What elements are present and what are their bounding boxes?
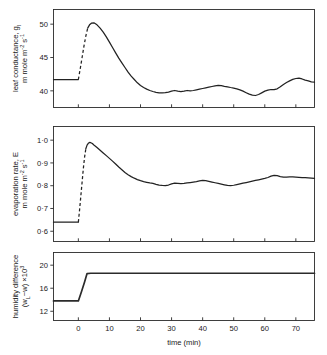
multi-panel-timeseries-figure: 4045500·60·70·80·91·01216200102030405060… bbox=[0, 0, 327, 355]
svg-text:m mole m-2 s-1: m mole m-2 s-1 bbox=[19, 159, 29, 208]
x-tick-label: 10 bbox=[105, 324, 113, 333]
panel-humidity-difference: 121620 bbox=[40, 253, 315, 321]
data-curve-thick bbox=[54, 273, 315, 301]
x-tick-label: 20 bbox=[136, 324, 144, 333]
y-tick-label: 16 bbox=[40, 284, 48, 293]
x-tick-label: 70 bbox=[292, 324, 300, 333]
x-tick-label: 60 bbox=[261, 324, 269, 333]
data-curve-solid bbox=[86, 142, 315, 185]
y-tick-label: 0·6 bbox=[37, 227, 48, 236]
data-curve-dashed bbox=[78, 28, 87, 79]
y-axis-label-line2-panel1: m mole m-2 s-1 bbox=[19, 34, 29, 83]
y-axis-label-line1-panel3: humidity difference bbox=[11, 255, 20, 319]
y-tick-label: 0·7 bbox=[37, 204, 48, 213]
data-curve-solid bbox=[88, 23, 315, 96]
y-tick-label: 12 bbox=[40, 307, 48, 316]
svg-text:m mole m-2 s-1: m mole m-2 s-1 bbox=[19, 34, 29, 83]
plot-frame bbox=[54, 10, 315, 108]
x-tick-label: 50 bbox=[229, 324, 237, 333]
y-tick-label: 1·0 bbox=[37, 136, 48, 145]
y-tick-label: 0·9 bbox=[37, 159, 48, 168]
figure-container: 4045500·60·70·80·91·01216200102030405060… bbox=[0, 0, 327, 355]
panel-leaf-conductance: 404550 bbox=[40, 10, 315, 108]
svg-text:(wL−w) ×103: (wL−w) ×103 bbox=[19, 266, 31, 308]
data-curve-dashed bbox=[78, 149, 85, 222]
y-tick-label: 50 bbox=[40, 20, 48, 29]
panel-evaporation-rate: 0·60·70·80·91·0 bbox=[37, 127, 314, 242]
y-axis-label-line2-panel3: (wL−w) ×103 bbox=[19, 266, 31, 308]
x-tick-label: 40 bbox=[198, 324, 206, 333]
x-axis-label: time (min) bbox=[167, 338, 201, 347]
x-tick-label: 0 bbox=[76, 324, 80, 333]
y-axis-label-line2-panel2: m mole m-2 s-1 bbox=[19, 159, 29, 208]
y-tick-label: 20 bbox=[40, 261, 48, 270]
y-tick-label: 0·8 bbox=[37, 181, 48, 190]
plot-frame bbox=[54, 253, 315, 321]
y-tick-label: 45 bbox=[40, 53, 48, 62]
svg-text:humidity difference: humidity difference bbox=[11, 255, 20, 319]
y-tick-label: 40 bbox=[40, 87, 48, 96]
x-tick-label: 30 bbox=[167, 324, 175, 333]
